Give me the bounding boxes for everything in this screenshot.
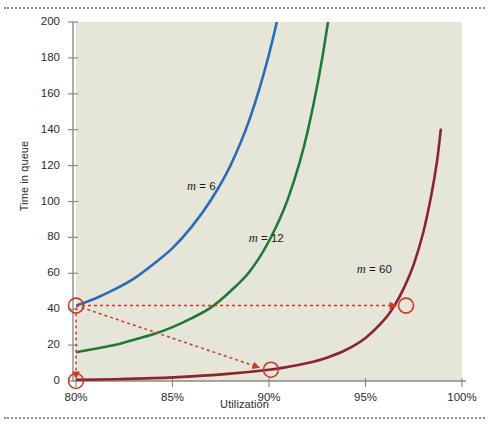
series-label: m = 12: [249, 231, 284, 246]
y-tick-label: 20: [20, 338, 60, 350]
plot-canvas: [0, 0, 489, 427]
y-tick-label: 180: [20, 51, 60, 63]
y-tick-label: 160: [20, 87, 60, 99]
y-tick-label: 40: [20, 302, 60, 314]
x-axis-title: Utilization: [0, 398, 489, 410]
y-axis-title: Time in queue: [18, 131, 30, 221]
series-label: m = 6: [187, 179, 216, 194]
y-tick-label: 80: [20, 230, 60, 242]
plot-background: [76, 22, 462, 381]
chart-figure: 02040608010012014016018020080%85%90%95%1…: [0, 0, 489, 427]
y-tick-label: 0: [20, 374, 60, 386]
y-tick-label: 60: [20, 266, 60, 278]
series-label: m = 60: [357, 262, 392, 277]
y-tick-label: 200: [20, 15, 60, 27]
